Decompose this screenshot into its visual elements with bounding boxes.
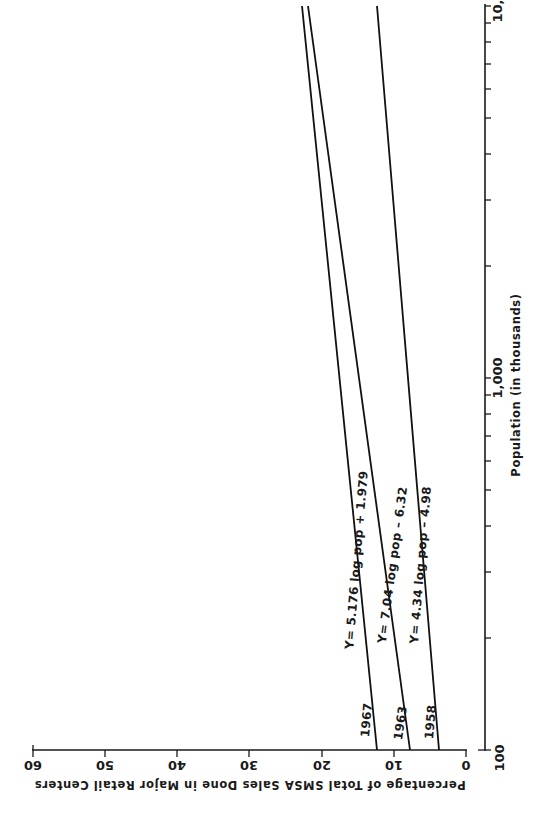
population-axis: 100 1,000 10,00 Population (in thousands…	[478, 0, 523, 772]
percentage-tick-label-30: 30	[240, 758, 258, 773]
percentage-axis-title: Percentage of Total SMSA Sales Done in M…	[34, 778, 466, 792]
percentage-tick-label-0: 0	[461, 758, 470, 773]
percentage-axis: 0 10 20 30 40 50 60 Percentage of Total …	[24, 745, 471, 792]
series-line-1967	[302, 6, 377, 750]
series-equation-1958: Y= 4.34 log pop – 4.98	[407, 486, 434, 645]
series-labels: 1967 1963 1958 Y= 5.176 log pop + 1.979 …	[342, 470, 439, 741]
series-year-label-1967: 1967	[358, 702, 375, 738]
percentage-tick-label-60: 60	[24, 758, 42, 773]
chart: 0 10 20 30 40 50 60 Percentage of Total …	[0, 0, 540, 830]
percentage-tick-label-10: 10	[385, 758, 403, 773]
percentage-tick-label-50: 50	[96, 758, 114, 773]
percentage-tick-label-40: 40	[168, 758, 186, 773]
population-tick-label-10000: 10,00	[490, 0, 505, 23]
population-tick-label-1000: 1,000	[490, 357, 505, 398]
series-year-label-1958: 1958	[422, 704, 439, 740]
series-equation-1967: Y= 5.176 log pop + 1.979	[342, 470, 371, 651]
series-line-1963	[308, 6, 410, 750]
series-year-label-1963: 1963	[391, 705, 410, 741]
population-tick-label-100: 100	[492, 744, 507, 771]
population-axis-title: Population (in thousands)	[509, 293, 523, 476]
percentage-tick-label-20: 20	[313, 758, 331, 773]
